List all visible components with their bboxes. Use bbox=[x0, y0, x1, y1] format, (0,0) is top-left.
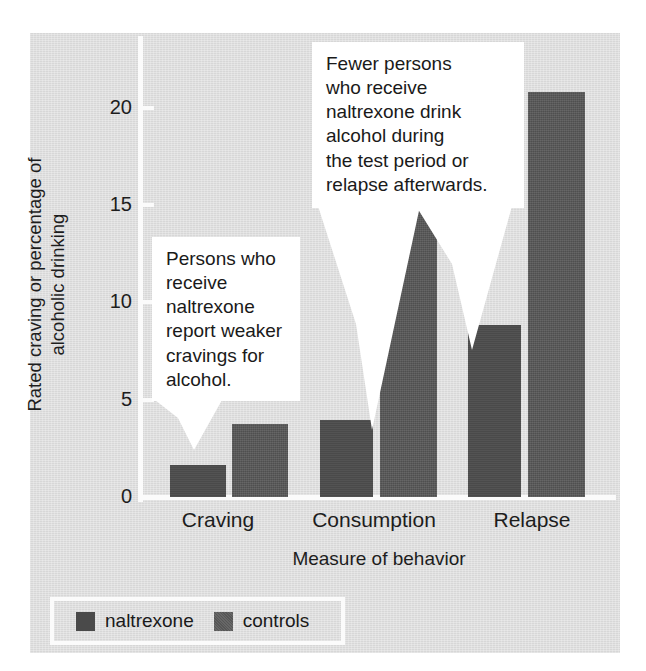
x-axis-title: Measure of behavior bbox=[140, 548, 618, 570]
consumption-callout-tail bbox=[300, 204, 430, 434]
craving-callout-line-1: Persons who bbox=[166, 247, 288, 271]
y-axis-title-line-2: alcoholic drinking bbox=[47, 70, 70, 500]
craving-callout-tail bbox=[150, 398, 260, 454]
legend-label-naltrexone: naltrexone bbox=[105, 610, 194, 632]
x-category-label-consumption: Consumption bbox=[290, 508, 458, 532]
legend-label-controls: controls bbox=[243, 610, 310, 632]
legend-entry-controls: controls bbox=[214, 610, 310, 632]
bar-craving-naltrexone bbox=[170, 465, 226, 497]
consumption-relapse-callout-line-2: who receive bbox=[326, 76, 512, 100]
craving-callout-line-6: alcohol. bbox=[166, 368, 288, 392]
craving-callout-line-5: cravings for bbox=[166, 344, 288, 368]
consumption-relapse-callout-line-6: relapse afterwards. bbox=[326, 173, 512, 197]
consumption-relapse-callout-line-4: alcohol during bbox=[326, 124, 512, 148]
x-category-label-relapse: Relapse bbox=[452, 508, 612, 532]
y-tick-label-20: 20 bbox=[92, 97, 132, 117]
y-tick-label-5: 5 bbox=[92, 389, 132, 409]
x-category-label-craving: Craving bbox=[140, 508, 296, 532]
consumption-relapse-callout-line-3: naltrexone drink bbox=[326, 100, 512, 124]
legend-entry-naltrexone: naltrexone bbox=[76, 610, 194, 632]
consumption-relapse-callout: Fewer persons who receive naltrexone dri… bbox=[312, 42, 524, 208]
craving-callout-line-3: naltrexone bbox=[166, 295, 288, 319]
craving-callout-line-2: receive bbox=[166, 271, 288, 295]
figure-canvas: 20 15 10 5 0 Rated craving or percentage… bbox=[0, 0, 646, 671]
y-tick-label-0: 0 bbox=[92, 486, 132, 506]
craving-callout: Persons who receive naltrexone report we… bbox=[152, 237, 300, 401]
consumption-relapse-callout-line-1: Fewer persons bbox=[326, 52, 512, 76]
legend-swatch-naltrexone-icon bbox=[76, 612, 95, 631]
consumption-relapse-callout-line-5: the test period or bbox=[326, 149, 512, 173]
craving-callout-line-4: report weaker bbox=[166, 319, 288, 343]
legend-swatch-controls-icon bbox=[214, 612, 233, 631]
y-tick-label-15: 15 bbox=[92, 194, 132, 214]
relapse-callout-tail bbox=[412, 204, 542, 354]
y-axis-title-line-1: Rated craving or percentage of bbox=[24, 70, 47, 500]
y-axis-title: Rated craving or percentage of alcoholic… bbox=[24, 70, 69, 500]
y-axis-tick-labels: 20 15 10 5 0 bbox=[78, 0, 132, 671]
chart-legend: naltrexone controls bbox=[50, 597, 345, 645]
y-tick-label-10: 10 bbox=[92, 291, 132, 311]
